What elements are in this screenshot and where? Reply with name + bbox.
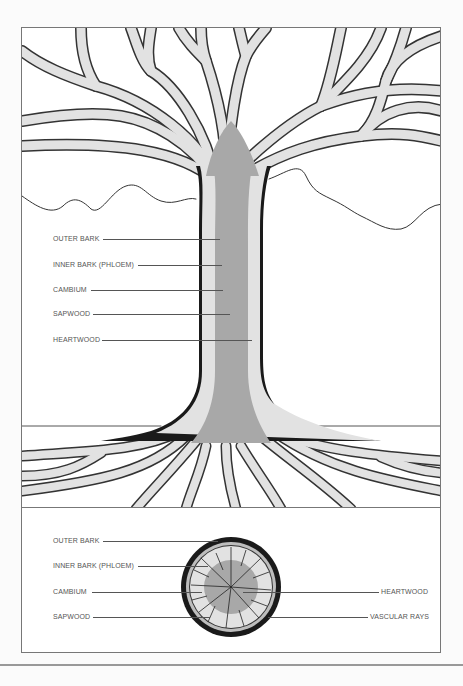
label-sapwood: SAPWOOD xyxy=(53,613,90,621)
leader-line xyxy=(93,314,230,315)
cross-section-panel: OUTER BARK INNER BARK (PHLOEM) CAMBIUM S… xyxy=(21,508,441,653)
label-heartwood: HEARTWOOD xyxy=(381,588,428,596)
trunk-sapwood xyxy=(156,166,381,441)
leader-line xyxy=(138,265,222,266)
horizon-line xyxy=(22,185,196,210)
page-divider xyxy=(0,664,463,666)
label-inner-bark: INNER BARK (PHLOEM) xyxy=(53,562,134,570)
label-heartwood: HEARTWOOD xyxy=(53,336,100,344)
label-outer-bark: OUTER BARK xyxy=(53,537,100,545)
tree-illustration-panel: OUTER BARK INNER BARK (PHLOEM) CAMBIUM S… xyxy=(21,27,441,508)
leader-line xyxy=(91,290,223,291)
leader-line xyxy=(243,592,379,593)
label-cambium: CAMBIUM xyxy=(53,286,87,294)
label-vascular-rays: VASCULAR RAYS xyxy=(370,613,429,621)
leader-line xyxy=(93,617,210,618)
label-inner-bark: INNER BARK (PHLOEM) xyxy=(53,261,134,269)
leader-line xyxy=(103,239,220,240)
label-sapwood: SAPWOOD xyxy=(53,310,90,318)
cross-section-drawing xyxy=(22,508,442,653)
leader-line xyxy=(103,541,218,542)
leader-line xyxy=(102,340,252,341)
leader-line xyxy=(268,617,368,618)
label-cambium: CAMBIUM xyxy=(53,588,87,596)
label-outer-bark: OUTER BARK xyxy=(53,235,100,243)
leader-line xyxy=(138,566,208,567)
leader-line xyxy=(92,592,202,593)
